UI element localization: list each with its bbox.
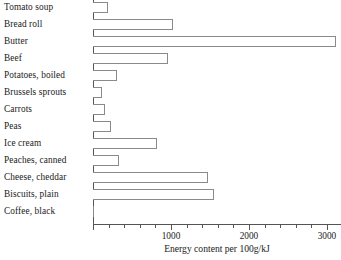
x-tick-minor [124,225,125,228]
x-tick-major [171,225,172,230]
category-label-peaches-canned: Peaches, canned [0,155,88,165]
bar [93,104,105,115]
x-tick-major [327,225,328,230]
category-label-butter: Butter [0,36,88,46]
x-tick-major [249,225,250,230]
x-tick-minor [109,225,110,228]
bar-chart: Tomato soup Bread roll Butter Beef Potat… [0,0,341,260]
plot-area: 100020003000 [93,0,341,225]
x-tick-minor [155,225,156,228]
category-label-tomato-soup: Tomato soup [0,2,88,12]
x-tick-label: 2000 [240,231,259,241]
x-tick-minor [311,225,312,228]
x-tick-label: 3000 [318,231,337,241]
bar [93,138,157,149]
x-tick-label: 1000 [162,231,181,241]
x-tick-minor [140,225,141,228]
bar [93,206,94,217]
x-tick-minor [296,225,297,228]
category-label-brussels-sprouts: Brussels sprouts [0,87,88,97]
category-label-ice-cream: Ice cream [0,138,88,148]
x-tick-minor [218,225,219,228]
category-label-potatoes-boiled: Potatoes, boiled [0,70,88,80]
bar [93,2,108,13]
bar [93,121,111,132]
bar [93,189,214,200]
bar [93,70,117,81]
bar [93,155,119,166]
category-label-coffee-black: Coffee, black [0,206,88,216]
category-label-beef: Beef [0,53,88,63]
bar [93,53,168,64]
bar [93,19,173,30]
x-tick-minor [202,225,203,228]
bar [93,172,208,183]
bar [93,87,102,98]
x-tick-minor [233,225,234,228]
x-tick-major [93,225,94,230]
category-label-biscuits-plain: Biscuits, plain [0,189,88,199]
x-axis-caption: Energy content per 100g/kJ [93,243,341,254]
bar [93,36,336,47]
category-label-bread-roll: Bread roll [0,19,88,29]
category-label-carrots: Carrots [0,104,88,114]
x-tick-minor [265,225,266,228]
x-tick-minor [187,225,188,228]
category-label-peas: Peas [0,121,88,131]
x-tick-minor [280,225,281,228]
category-label-cheese-cheddar: Cheese, cheddar [0,172,88,182]
